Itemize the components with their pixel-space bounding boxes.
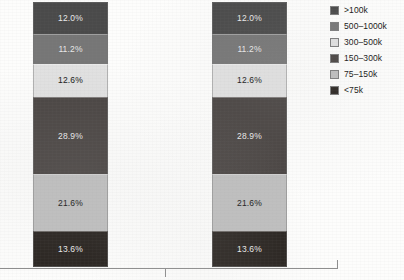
bar-segment: 13.6% <box>212 231 287 267</box>
chart-legend: >100k500–1000k300–500k150–300k75–150k<75… <box>330 2 387 98</box>
legend-label: 500–1000k <box>344 22 387 31</box>
segment-value-label: 28.9% <box>237 132 262 141</box>
segment-value-label: 12.0% <box>237 14 262 23</box>
bar-segment: 12.6% <box>33 64 108 97</box>
legend-swatch-icon <box>330 38 339 47</box>
segment-value-label: 12.6% <box>58 76 83 85</box>
bar-segment: 11.2% <box>33 34 108 64</box>
legend-item: 150–300k <box>330 50 387 66</box>
legend-item: 75–150k <box>330 66 387 82</box>
legend-label: >100k <box>344 6 368 15</box>
segment-value-label: 12.0% <box>58 14 83 23</box>
legend-item: 300–500k <box>330 34 387 50</box>
legend-item: <75k <box>330 82 387 98</box>
segment-value-label: 21.6% <box>237 199 262 208</box>
stacked-bar-2: 12.0%11.2%12.6%28.9%21.6%13.6% <box>212 2 287 267</box>
bar-segment: 11.2% <box>212 34 287 64</box>
stacked-bar-1: 12.0%11.2%12.6%28.9%21.6%13.6% <box>33 2 108 267</box>
segment-value-label: 12.6% <box>237 76 262 85</box>
legend-label: 300–500k <box>344 38 382 47</box>
legend-item: >100k <box>330 2 387 18</box>
legend-label: <75k <box>344 86 363 95</box>
legend-swatch-icon <box>330 86 339 95</box>
segment-value-label: 28.9% <box>58 132 83 141</box>
bar-segment: 21.6% <box>212 174 287 231</box>
legend-swatch-icon <box>330 54 339 63</box>
legend-item: 500–1000k <box>330 18 387 34</box>
x-axis-line <box>0 268 338 269</box>
legend-swatch-icon <box>330 22 339 31</box>
legend-swatch-icon <box>330 6 339 15</box>
segment-value-label: 21.6% <box>58 199 83 208</box>
bar-segment: 13.6% <box>33 231 108 267</box>
bar-segment: 28.9% <box>33 97 108 174</box>
legend-label: 75–150k <box>344 70 377 79</box>
segment-value-label: 11.2% <box>58 45 82 54</box>
segment-value-label: 13.6% <box>237 245 262 254</box>
legend-label: 150–300k <box>344 54 382 63</box>
chart-page: 12.0%11.2%12.6%28.9%21.6%13.6%12.0%11.2%… <box>0 0 404 280</box>
segment-value-label: 13.6% <box>58 245 83 254</box>
bar-segment: 12.6% <box>212 64 287 97</box>
bar-segment: 12.0% <box>33 2 108 34</box>
x-axis-tick-right <box>337 260 338 269</box>
segment-value-label: 11.2% <box>237 45 261 54</box>
x-axis-tick-center <box>165 268 166 277</box>
bar-segment: 28.9% <box>212 97 287 174</box>
legend-swatch-icon <box>330 70 339 79</box>
bar-segment: 12.0% <box>212 2 287 34</box>
bar-segment: 21.6% <box>33 174 108 231</box>
